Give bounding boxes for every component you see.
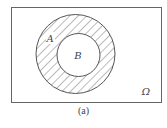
figure-caption: (a) — [0, 105, 167, 116]
set-a-label: A — [45, 33, 53, 44]
set-b-label: B — [73, 50, 81, 61]
universe-label: Ω — [141, 86, 150, 97]
